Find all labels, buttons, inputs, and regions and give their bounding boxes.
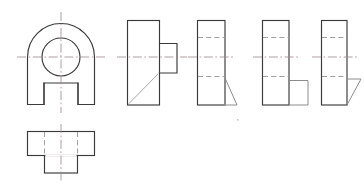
- side-view-3-corner-block: [289, 81, 308, 106]
- side-view-2-triangle-flange: [225, 78, 237, 105]
- view-bottom: [28, 124, 95, 181]
- view-right-2: [188, 21, 239, 121]
- side-view-4-angled-flange: [347, 79, 361, 105]
- technical-drawing-canvas: [0, 0, 364, 191]
- artifact-speck-1: [237, 119, 239, 121]
- side-view-1-diagonal-cut: [129, 74, 158, 104]
- side-view-3-main-rectangle: [263, 21, 290, 106]
- side-view-4-main-rectangle: [322, 21, 348, 106]
- view-right-1: [117, 21, 187, 106]
- view-front: [17, 12, 105, 113]
- side-view-1-main-rectangle: [128, 21, 160, 106]
- view-right-4: [312, 21, 361, 106]
- side-view-1-boss-outline: [160, 44, 178, 74]
- orthographic-views-svg: [0, 0, 364, 191]
- side-view-2-main-rectangle: [198, 21, 226, 106]
- view-right-3: [253, 21, 308, 106]
